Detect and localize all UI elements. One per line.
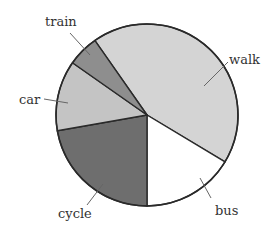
label-cycle: cycle [58,206,92,221]
pie-slices [56,24,238,206]
label-car: car [19,92,41,107]
label-train: train [45,14,77,29]
label-walk: walk [229,52,260,67]
label-bus: bus [215,203,238,218]
leader-line-train [70,33,90,55]
pie-chart: walk bus cycle car train [0,0,269,229]
